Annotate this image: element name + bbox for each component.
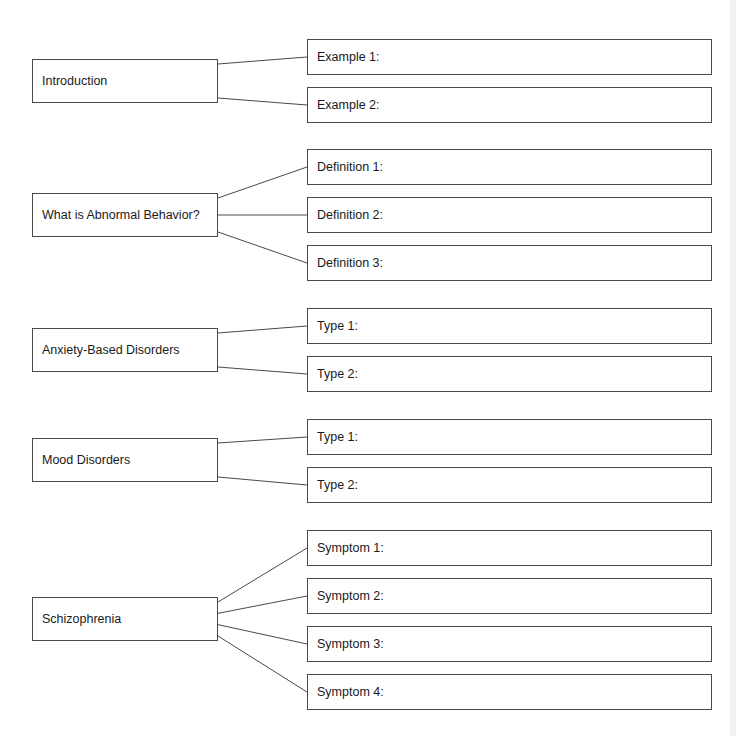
slot-label: Symptom 3: <box>317 637 384 651</box>
answer-box-definition-1[interactable]: Definition 1: <box>307 149 712 185</box>
topic-label: Schizophrenia <box>42 612 121 626</box>
answer-box-symptom-4[interactable]: Symptom 4: <box>307 674 712 710</box>
connector-line <box>218 167 307 198</box>
answer-box-symptom-1[interactable]: Symptom 1: <box>307 530 712 566</box>
topic-label: Anxiety-Based Disorders <box>42 343 180 357</box>
topic-box-anxiety-disorders: Anxiety-Based Disorders <box>32 328 218 372</box>
slot-label: Type 2: <box>317 367 358 381</box>
slot-label: Symptom 1: <box>317 541 384 555</box>
slot-label: Definition 1: <box>317 160 383 174</box>
slot-label: Type 1: <box>317 430 358 444</box>
connector-line <box>218 98 307 105</box>
connector-line <box>218 596 307 613</box>
topic-box-schizophrenia: Schizophrenia <box>32 597 218 641</box>
answer-box-mood-type-2[interactable]: Type 2: <box>307 467 712 503</box>
connector-line <box>218 625 307 644</box>
slot-label: Symptom 4: <box>317 685 384 699</box>
connector-line <box>218 326 307 333</box>
answer-box-example-1[interactable]: Example 1: <box>307 39 712 75</box>
connector-line <box>218 636 307 692</box>
answer-box-example-2[interactable]: Example 2: <box>307 87 712 123</box>
answer-box-definition-2[interactable]: Definition 2: <box>307 197 712 233</box>
topic-box-introduction: Introduction <box>32 59 218 103</box>
topic-box-mood-disorders: Mood Disorders <box>32 438 218 482</box>
slot-label: Definition 2: <box>317 208 383 222</box>
answer-box-definition-3[interactable]: Definition 3: <box>307 245 712 281</box>
slot-label: Type 1: <box>317 319 358 333</box>
topic-box-abnormal-behavior: What is Abnormal Behavior? <box>32 193 218 237</box>
topic-label: What is Abnormal Behavior? <box>42 208 200 222</box>
connector-line <box>218 437 307 443</box>
slot-label: Definition 3: <box>317 256 383 270</box>
answer-box-anxiety-type-2[interactable]: Type 2: <box>307 356 712 392</box>
page-edge-strip <box>730 0 736 736</box>
slot-label: Example 2: <box>317 98 380 112</box>
topic-label: Introduction <box>42 74 107 88</box>
answer-box-mood-type-1[interactable]: Type 1: <box>307 419 712 455</box>
connector-line <box>218 477 307 485</box>
connector-line <box>218 548 307 602</box>
connector-line <box>218 57 307 64</box>
answer-box-anxiety-type-1[interactable]: Type 1: <box>307 308 712 344</box>
topic-label: Mood Disorders <box>42 453 130 467</box>
connector-line <box>218 367 307 374</box>
answer-box-symptom-2[interactable]: Symptom 2: <box>307 578 712 614</box>
slot-label: Symptom 2: <box>317 589 384 603</box>
connector-line <box>218 232 307 263</box>
slot-label: Example 1: <box>317 50 380 64</box>
answer-box-symptom-3[interactable]: Symptom 3: <box>307 626 712 662</box>
slot-label: Type 2: <box>317 478 358 492</box>
